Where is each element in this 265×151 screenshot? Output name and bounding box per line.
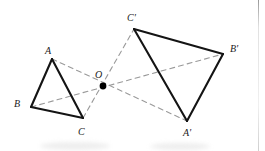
edge-A-B <box>31 59 52 107</box>
vertex-label-c: C <box>78 127 85 137</box>
dashed-line-C-Cp <box>83 29 134 118</box>
dashed-line-A-Ap <box>52 59 187 121</box>
triangle-edges <box>31 29 223 121</box>
vertex-label-b: B <box>14 99 20 109</box>
edge-Ap-Bp <box>187 54 223 121</box>
vertex-label-c-prime: C' <box>127 13 136 23</box>
center-point-label-o: O <box>95 70 102 80</box>
vertex-label-a: A <box>45 46 51 56</box>
scan-edge-artifact <box>258 0 259 151</box>
geometry-figure: A B C O A' B' C' <box>0 0 265 151</box>
edge-C-A <box>52 59 83 118</box>
vertex-label-b-prime: B' <box>230 44 238 54</box>
point-marker-o <box>100 83 107 90</box>
edge-Cp-Ap <box>134 29 187 121</box>
scan-smudge-artifact <box>40 142 110 150</box>
edge-B-C <box>31 107 83 118</box>
vertex-label-a-prime: A' <box>183 128 191 138</box>
scan-smudge-artifact <box>150 143 210 150</box>
marked-points <box>100 83 107 90</box>
dashed-line-B-Bp <box>31 54 223 107</box>
